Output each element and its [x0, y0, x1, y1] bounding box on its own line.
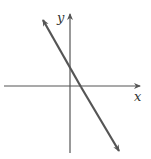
coordinate-plane: y x [0, 0, 151, 159]
graph-line [81, 87, 119, 151]
y-axis-label: y [56, 10, 65, 25]
graph-line-upper [43, 20, 81, 87]
x-axis-label: x [134, 89, 142, 104]
